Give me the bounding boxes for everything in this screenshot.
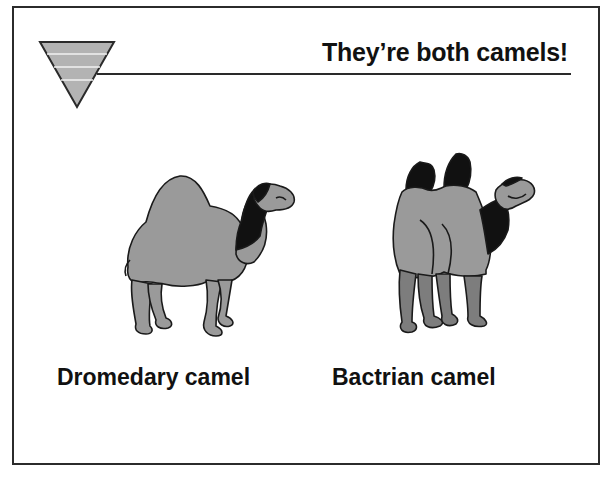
dromedary-camel-icon: [118, 172, 298, 344]
dromedary-caption: Dromedary camel: [57, 364, 250, 391]
slide-title: They’re both camels!: [322, 38, 568, 67]
bactrian-caption: Bactrian camel: [332, 364, 496, 391]
title-underline: [97, 73, 571, 75]
inverted-striped-triangle-icon: [38, 40, 116, 110]
bactrian-camel-icon: [384, 150, 538, 338]
